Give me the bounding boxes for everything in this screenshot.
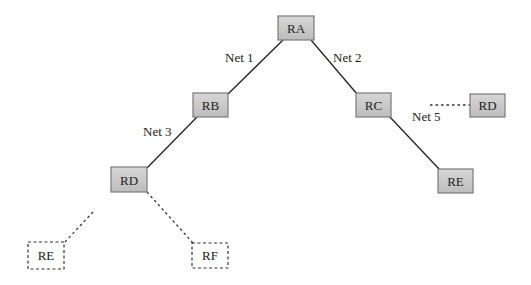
link-rd-re-dotted bbox=[64, 212, 93, 243]
link-label-net2: Net 2 bbox=[333, 50, 362, 65]
link-label-net3: Net 3 bbox=[143, 124, 172, 139]
link-ra-rb bbox=[228, 40, 283, 94]
node-label: RD bbox=[120, 173, 138, 188]
link-rd-rf-dotted bbox=[147, 192, 193, 243]
node-rb[interactable]: RB bbox=[193, 93, 228, 117]
node-label: RD bbox=[478, 98, 496, 113]
node-label: RE bbox=[447, 174, 464, 189]
node-label: RF bbox=[202, 248, 218, 263]
link-label-net5: Net 5 bbox=[412, 109, 441, 124]
node-rc[interactable]: RC bbox=[356, 93, 391, 117]
node-rf-dashed[interactable]: RF bbox=[192, 243, 228, 268]
link-label-net1: Net 1 bbox=[225, 50, 254, 65]
node-re-dashed[interactable]: RE bbox=[28, 242, 64, 269]
node-ra[interactable]: RA bbox=[278, 16, 314, 40]
node-label: RC bbox=[365, 98, 382, 113]
node-label: RE bbox=[38, 248, 55, 263]
node-label: RA bbox=[287, 21, 306, 36]
link-ra-rc bbox=[311, 40, 357, 94]
node-rd-left[interactable]: RD bbox=[111, 167, 147, 192]
link-rc-re bbox=[389, 116, 440, 170]
node-rd-right[interactable]: RD bbox=[470, 94, 505, 117]
node-label: RB bbox=[202, 98, 220, 113]
network-diagram: Net 1 Net 2 Net 3 Net 5 RA RB RC RD RD R… bbox=[0, 0, 531, 285]
node-re-right[interactable]: RE bbox=[438, 169, 473, 193]
